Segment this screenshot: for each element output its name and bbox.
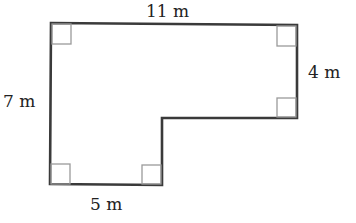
label-left-height: 7 m — [3, 91, 35, 111]
right-angle-marker-bottom-left — [51, 164, 70, 184]
label-right-height: 4 m — [308, 62, 340, 82]
label-bottom-width: 5 m — [90, 194, 122, 214]
l-shape-diagram: 11 m 4 m 7 m 5 m — [0, 0, 356, 223]
right-angle-marker-inner-right — [277, 98, 296, 117]
label-top-width: 11 m — [146, 1, 189, 21]
right-angle-marker-top-left — [52, 24, 71, 44]
right-angle-marker-top-right — [277, 26, 296, 46]
shape-outline — [50, 23, 297, 185]
right-angle-marker-bottom-inner — [142, 165, 161, 184]
